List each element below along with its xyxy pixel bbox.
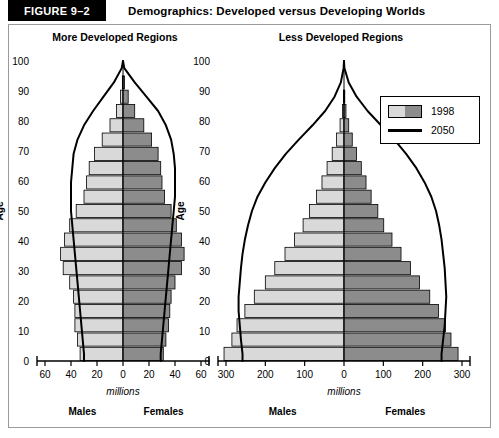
chart-right-plot: 3002001000100200300010203040506070809010… — [224, 25, 492, 429]
figure-number-tag: FIGURE 9–2 — [8, 0, 106, 21]
y-tick-label: 90 — [199, 86, 211, 97]
y-tick-label: 20 — [18, 296, 30, 307]
bar-female-1998 — [123, 247, 184, 260]
x-axis-title: millions — [327, 386, 360, 397]
y-tick-label: 30 — [199, 266, 211, 277]
bar-male-1998 — [74, 290, 123, 303]
bar-female-1998 — [344, 233, 392, 246]
bar-female-1998 — [344, 176, 366, 189]
bar-female-1998 — [123, 319, 169, 332]
bar-female-1998 — [344, 319, 445, 332]
y-tick-label: 90 — [18, 86, 30, 97]
x-tick-label: 40 — [169, 369, 181, 380]
bar-female-1998 — [344, 190, 371, 203]
bar-male-1998 — [84, 190, 123, 203]
y-tick-label: 50 — [199, 206, 211, 217]
legend-swatch-2050-line — [388, 129, 422, 132]
bar-male-1998 — [94, 147, 123, 160]
figure-title: Demographics: Developed versus Developin… — [128, 0, 425, 21]
y-tick-label: 30 — [18, 266, 30, 277]
bar-female-1998 — [344, 119, 349, 132]
bar-male-1998 — [340, 119, 344, 132]
bar-female-1998 — [123, 104, 135, 117]
bar-female-1998 — [123, 147, 158, 160]
bar-female-1998 — [123, 204, 171, 217]
legend-swatch-1998-bars — [388, 105, 422, 118]
y-tick-label: 70 — [18, 146, 30, 157]
y-tick-label: 80 — [199, 116, 211, 127]
x-axis-title: millions — [106, 386, 139, 397]
legend-label-1998: 1998 — [431, 105, 454, 117]
bar-male-1998 — [332, 147, 344, 160]
bar-male-1998 — [294, 233, 344, 246]
bar-female-1998 — [344, 276, 420, 289]
bar-female-1998 — [344, 262, 410, 275]
bar-female-1998 — [123, 333, 166, 346]
legend-item-1998: 1998 — [388, 103, 454, 119]
bar-male-1998 — [61, 247, 123, 260]
y-tick-label: 70 — [199, 146, 211, 157]
bar-female-1998 — [123, 176, 162, 189]
figure-panel: More Developed Regions 60402002040600102… — [8, 24, 491, 428]
males-label: Males — [269, 406, 297, 417]
bar-male-1998 — [89, 162, 123, 175]
bar-female-1998 — [123, 133, 152, 146]
bar-female-1998 — [344, 247, 401, 260]
chart-less-developed-regions: Less Developed Regions 30020010001002003… — [224, 25, 492, 429]
x-tick-label: 100 — [296, 369, 313, 380]
bar-male-1998 — [254, 290, 344, 303]
legend: 1998 2050 — [380, 96, 480, 144]
bar-male-1998 — [75, 304, 123, 317]
bar-male-1998 — [63, 262, 123, 275]
bar-male-1998 — [265, 276, 344, 289]
x-tick-label: 100 — [375, 369, 392, 380]
bar-female-1998 — [123, 233, 182, 246]
bar-female-1998 — [344, 290, 430, 303]
y-tick-label: 100 — [12, 56, 29, 67]
y-tick-label: 60 — [199, 176, 211, 187]
bar-male-1998 — [245, 304, 344, 317]
y-axis-title: Age — [175, 201, 186, 220]
bar-female-1998 — [344, 333, 451, 346]
x-tick-label: 20 — [143, 369, 155, 380]
bar-male-1998 — [316, 190, 344, 203]
y-tick-label: 80 — [18, 116, 30, 127]
figure-header: FIGURE 9–2 Demographics: Developed versu… — [0, 0, 499, 21]
females-label: Females — [385, 406, 425, 417]
bar-male-1998 — [303, 219, 344, 232]
x-tick-label: 40 — [65, 369, 77, 380]
bar-male-1998 — [309, 204, 344, 217]
bar-female-1998 — [344, 219, 384, 232]
bar-female-1998 — [123, 119, 144, 132]
bar-female-1998 — [123, 219, 176, 232]
y-tick-label: 10 — [18, 326, 30, 337]
bar-male-1998 — [275, 262, 344, 275]
y-tick-label: 60 — [18, 176, 30, 187]
x-tick-label: 60 — [39, 369, 51, 380]
x-tick-label: 60 — [195, 369, 207, 380]
bar-female-1998 — [344, 304, 438, 317]
y-tick-label: 50 — [18, 206, 30, 217]
bar-female-1998 — [344, 204, 378, 217]
bar-female-1998 — [123, 304, 170, 317]
bar-male-1998 — [70, 219, 123, 232]
bar-male-1998 — [285, 247, 344, 260]
bar-female-1998 — [344, 133, 352, 146]
bar-female-1998 — [123, 162, 161, 175]
y-tick-label: 100 — [193, 56, 210, 67]
y-tick-label: 0 — [204, 356, 210, 367]
bar-male-1998 — [80, 347, 123, 360]
x-tick-label: 20 — [91, 369, 103, 380]
bar-female-1998 — [344, 147, 357, 160]
bar-male-1998 — [78, 333, 124, 346]
bar-female-1998 — [123, 190, 165, 203]
y-tick-label: 40 — [199, 236, 211, 247]
y-tick-label: 0 — [23, 356, 29, 367]
x-tick-label: 0 — [120, 369, 126, 380]
bar-female-1998 — [123, 262, 182, 275]
figure-container: FIGURE 9–2 Demographics: Developed versu… — [0, 0, 499, 438]
bar-male-1998 — [76, 204, 123, 217]
bar-male-1998 — [232, 333, 344, 346]
bar-male-1998 — [117, 104, 124, 117]
bar-male-1998 — [337, 133, 344, 146]
